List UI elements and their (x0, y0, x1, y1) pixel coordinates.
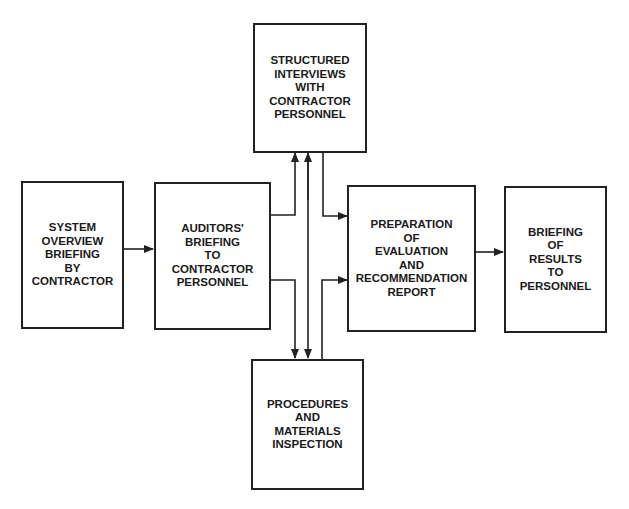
edge-procedures-to-preparation (322, 280, 347, 359)
edge-interviews-to-preparation (323, 152, 347, 216)
node-preparation-report-label: PREPARATION OF EVALUATION AND RECOMMENDA… (356, 218, 468, 299)
flow-diagram: SYSTEM OVERVIEW BRIEFING BY CONTRACTOR A… (0, 0, 629, 509)
edge-auditors-to-procedures (270, 280, 295, 358)
node-auditors-briefing-label: AUDITORS' BRIEFING TO CONTRACTOR PERSONN… (172, 222, 254, 290)
edge-auditors-to-interviews (270, 153, 295, 215)
node-preparation-report: PREPARATION OF EVALUATION AND RECOMMENDA… (347, 185, 476, 332)
node-procedures-inspection: PROCEDURES AND MATERIALS INSPECTION (251, 359, 364, 490)
node-procedures-inspection-label: PROCEDURES AND MATERIALS INSPECTION (267, 398, 348, 452)
node-structured-interviews: STRUCTURED INTERVIEWS WITH CONTRACTOR PE… (253, 23, 367, 153)
node-system-overview-label: SYSTEM OVERVIEW BRIEFING BY CONTRACTOR (32, 221, 114, 289)
node-briefing-results-label: BRIEFING OF RESULTS TO PERSONNEL (520, 226, 592, 294)
node-structured-interviews-label: STRUCTURED INTERVIEWS WITH CONTRACTOR PE… (269, 54, 351, 122)
node-system-overview: SYSTEM OVERVIEW BRIEFING BY CONTRACTOR (21, 181, 124, 329)
node-briefing-results: BRIEFING OF RESULTS TO PERSONNEL (504, 186, 607, 333)
node-auditors-briefing: AUDITORS' BRIEFING TO CONTRACTOR PERSONN… (154, 182, 271, 330)
